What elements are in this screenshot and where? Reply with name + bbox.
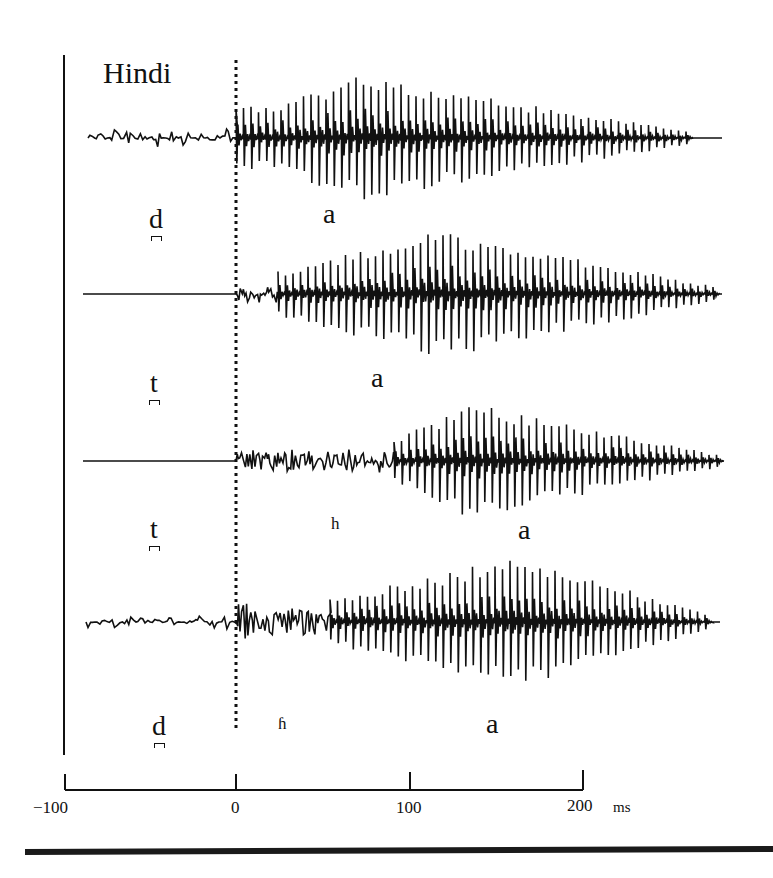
segment-label-row4-a: a — [486, 710, 498, 738]
consonant-label-row3: t — [142, 513, 166, 551]
consonant-label-row1: d — [144, 203, 168, 241]
segment-label-row4-breathy-h: ɦ — [278, 715, 287, 732]
waveform-row-4 — [86, 561, 720, 681]
dental-diacritic-icon — [149, 400, 160, 405]
chart-title: Hindi — [103, 58, 171, 88]
bottom-rule — [25, 846, 773, 855]
tick-label-minus-100: −100 — [33, 799, 68, 816]
waveform-row-2 — [83, 234, 722, 354]
consonant-label-row2: t — [142, 367, 166, 405]
segment-label-row3-a: a — [518, 516, 530, 544]
dental-diacritic-icon — [149, 546, 160, 551]
dental-diacritic-icon — [154, 743, 165, 748]
tick-label-200: 200 — [567, 797, 593, 814]
segment-label-row1-a: a — [323, 200, 335, 228]
dental-diacritic-icon — [151, 236, 162, 241]
waveform-figure — [0, 0, 773, 878]
waveform-row-1 — [88, 78, 722, 200]
waveform-row-3 — [83, 407, 724, 514]
tick-label-100: 100 — [396, 799, 422, 816]
waveform-group — [83, 78, 724, 681]
segment-label-row2-a: a — [371, 364, 383, 392]
axis-unit-label: ms — [613, 800, 631, 815]
segment-label-row3-h: h — [331, 515, 340, 532]
tick-label-0: 0 — [231, 799, 240, 816]
consonant-label-row4: d — [147, 710, 171, 748]
time-axis — [65, 770, 583, 790]
